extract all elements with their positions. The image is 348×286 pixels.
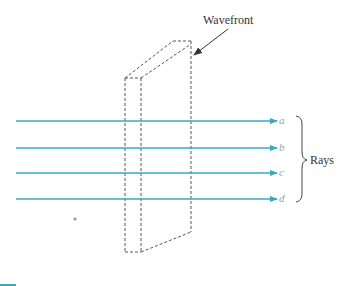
ray-label-c: c	[279, 166, 284, 178]
rays-brace-icon	[296, 116, 307, 202]
wavefront-pointer-arrow-icon	[194, 29, 228, 55]
wavefront-diagram: a b c d Rays Wavefront	[0, 0, 348, 286]
rays-group	[16, 121, 277, 199]
ray-label-b: b	[279, 141, 285, 153]
smudge-mark	[73, 217, 76, 220]
rays-label: Rays	[310, 153, 334, 167]
ray-label-a: a	[279, 114, 285, 126]
wavefront-slab	[125, 41, 191, 252]
ray-label-d: d	[279, 192, 285, 204]
wavefront-label: Wavefront	[203, 13, 254, 27]
